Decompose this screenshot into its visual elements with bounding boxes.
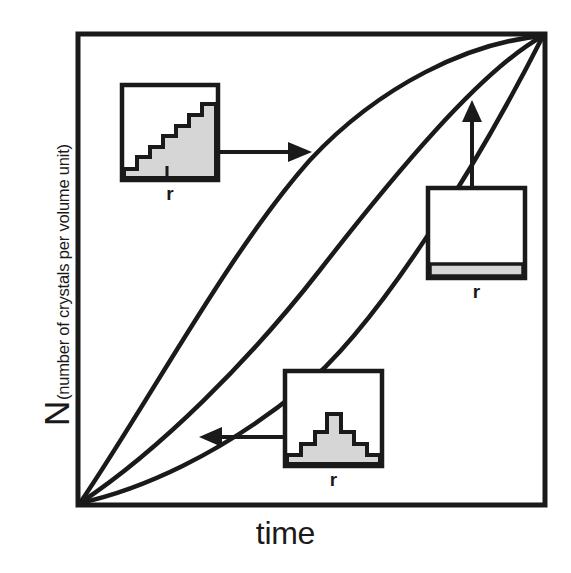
x-axis-label: time: [0, 515, 571, 552]
y-axis-label-description: (number of crystals per volume unit): [54, 144, 73, 400]
inset-flat-r-label: r: [428, 281, 525, 303]
inset-flat-histogram: [430, 264, 523, 276]
inset-staircase-r-label: r: [122, 183, 218, 205]
inset-bell-r-label: r: [285, 469, 382, 491]
crystal-size-distribution-staircase: [122, 85, 218, 180]
arrow-staircase-to-upper-curve: [219, 142, 312, 162]
y-axis-label: N (number of crystals per volume unit): [37, 75, 83, 495]
crystal-size-distribution-bell: [285, 371, 382, 466]
crystal-nucleation-figure: N (number of crystals per volume unit) t…: [0, 0, 571, 573]
y-axis-label-symbol: N: [37, 401, 77, 426]
crystal-size-distribution-flat: [428, 188, 525, 278]
